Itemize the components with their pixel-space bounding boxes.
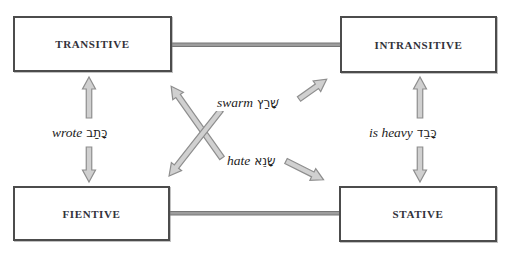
box-stative-label: STATIVE (393, 208, 444, 220)
box-fientive: FIENTIVE (13, 186, 170, 241)
arrow-wrote-to-transitive (83, 77, 96, 118)
arrow-isheavy-to-intransitive (414, 77, 427, 118)
swarm-english-gloss: swarm (217, 95, 253, 111)
box-stative: STATIVE (339, 186, 497, 242)
connector-transitive-intransitive (169, 43, 342, 47)
swarm-hebrew-word: שָׁרַץ (257, 96, 279, 110)
hate-hebrew-word: שָׂנֵא (254, 154, 275, 168)
box-intransitive-label: INTRANSITIVE (375, 39, 463, 51)
box-transitive-label: TRANSITIVE (55, 38, 129, 50)
wrote-hebrew-word: כָּתַב (86, 126, 107, 140)
edge-label-wrote: wrote כָּתַב (51, 125, 108, 141)
edge-label-swarm: swarm שָׁרַץ (216, 95, 280, 111)
arrow-swarm-to-intransitive (295, 74, 330, 104)
wrote-english-gloss: wrote (52, 125, 82, 141)
is-heavy-english-gloss: is heavy (369, 125, 413, 141)
edge-label-hate: hate שָׂנֵא (226, 153, 277, 169)
connector-fientive-stative (168, 212, 341, 216)
is-heavy-hebrew-word: כָּבֵד (417, 126, 437, 140)
hebrew-verb-types-diagram: TRANSITIVE INTRANSITIVE FIENTIVE STATIVE… (0, 0, 514, 258)
hate-english-gloss: hate (227, 153, 250, 169)
edge-label-is-heavy: is heavy כָּבֵד (368, 125, 438, 141)
box-fientive-label: FIENTIVE (63, 208, 121, 220)
arrow-wrote-to-fientive (83, 147, 96, 182)
box-transitive: TRANSITIVE (13, 16, 172, 72)
box-intransitive: INTRANSITIVE (340, 16, 497, 73)
arrow-hate-to-stative (283, 155, 326, 185)
arrow-isheavy-to-stative (414, 147, 427, 182)
